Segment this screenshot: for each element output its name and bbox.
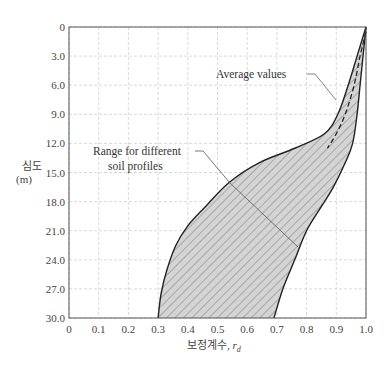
x-tick-label: 0.2 (122, 323, 136, 335)
y-axis-label: 심도 (22, 160, 42, 172)
x-tick-label: 0.4 (181, 323, 195, 335)
x-tick-label: 0.3 (151, 323, 165, 335)
chart: 00.10.20.30.40.50.60.70.80.91.003.06.09.… (0, 0, 391, 369)
y-axis-unit: (m) (16, 173, 32, 186)
x-tick-label: 0.6 (240, 323, 254, 335)
x-tick-label: 0.8 (300, 323, 314, 335)
x-tick-label: 0.9 (329, 323, 343, 335)
y-tick-label: 30.0 (46, 312, 66, 324)
average-pointer (307, 74, 336, 100)
x-axis-label: 보정계수, rd (187, 339, 242, 354)
annotation-range-1: Range for different (93, 145, 182, 158)
annotation-average: Average values (216, 68, 287, 81)
y-tick-label: 21.0 (46, 225, 66, 237)
x-tick-label: 0.5 (211, 323, 225, 335)
x-tick-label: 1.0 (359, 323, 373, 335)
x-tick-label: 0 (66, 323, 72, 335)
y-tick-label: 24.0 (46, 254, 66, 266)
y-tick-label: 18.0 (46, 196, 66, 208)
annotation-range-2: soil profiles (108, 160, 163, 173)
y-tick-label: 6.0 (51, 79, 65, 91)
y-tick-label: 27.0 (46, 283, 66, 295)
y-tick-label: 3.0 (51, 50, 65, 62)
y-tick-label: 0 (60, 21, 66, 33)
x-tick-label: 0.7 (270, 323, 284, 335)
y-tick-label: 9.0 (51, 108, 65, 120)
x-tick-label: 0.1 (92, 323, 106, 335)
y-tick-label: 12.0 (46, 137, 66, 149)
y-tick-label: 15.0 (46, 167, 66, 179)
